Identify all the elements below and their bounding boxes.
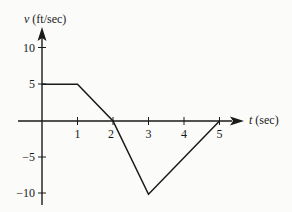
x-tick-label-2: 2 [108,127,114,141]
velocity-time-chart: 1 2 3 4 5 10 5 −5 −10 v (ft/sec) t (sec) [0,0,292,212]
y-axis-title: v (ft/sec) [24,12,66,26]
velocity-series-line [42,84,220,194]
y-tick-label-10: 10 [23,41,35,55]
x-tick-label-4: 4 [181,127,187,141]
y-tick-label-neg10: −10 [16,186,35,200]
y-tick-label-neg5: −5 [22,150,35,164]
x-axis-title: t (sec) [249,113,279,127]
x-axis-arrow-icon [230,117,244,126]
x-tick-label-1: 1 [75,127,81,141]
y-tick-label-5: 5 [29,77,35,91]
x-tick-label-5: 5 [217,127,223,141]
y-axis-unit: (ft/sec) [29,12,66,26]
x-tick-label-3: 3 [146,127,152,141]
axes [18,38,232,205]
x-axis-unit: (sec) [252,113,278,127]
